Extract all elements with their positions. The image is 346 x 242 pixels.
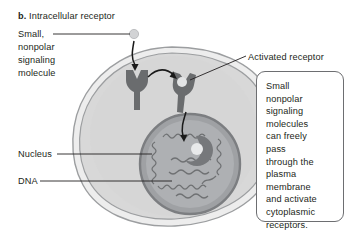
callout-text: Small nonpolar signaling molecules can f…	[266, 80, 343, 231]
signaling-molecule-sphere	[129, 29, 138, 38]
callout-box: Small nonpolar signaling molecules can f…	[256, 71, 344, 222]
nuclear-bound-ligand	[191, 143, 203, 155]
figure-panel: b. Intracellular receptor	[0, 0, 346, 242]
label-activated-receptor: Activated receptor	[248, 51, 324, 64]
bound-ligand-sphere	[177, 77, 187, 87]
label-nucleus: Nucleus	[18, 148, 52, 161]
label-dna: DNA	[18, 175, 38, 188]
label-signaling-molecule: Small, nonpolar signaling molecule	[18, 28, 56, 80]
